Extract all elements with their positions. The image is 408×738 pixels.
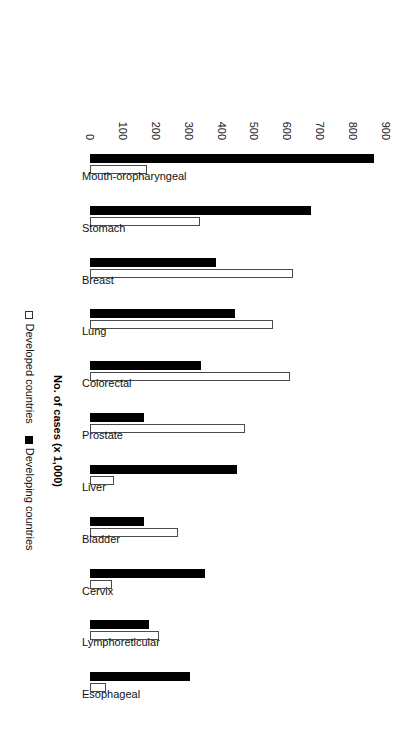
bar-group [90, 309, 386, 353]
bar-developed-countries [90, 320, 273, 329]
category-label: Bladder [82, 533, 120, 545]
category-label: Stomach [82, 222, 125, 234]
category-label: Breast [82, 274, 114, 286]
category-label: Cervix [82, 585, 113, 597]
bar-developing-countries [90, 154, 374, 163]
bar-group [90, 517, 386, 561]
category-label: Mouth-oropharyngeal [82, 170, 187, 182]
legend-entry: Developing countries [24, 436, 36, 551]
category-label: Lung [82, 325, 106, 337]
category-label: Colorectal [82, 377, 132, 389]
category-label: Lymphoreticular [82, 636, 160, 648]
bar-group [90, 413, 386, 457]
legend-swatch-open-icon [25, 311, 33, 319]
bar-group [90, 258, 386, 302]
chart-legend: Developed countriesDeveloping countries [24, 146, 36, 716]
value-axis-tick: 900 [380, 112, 392, 140]
value-axis-tick: 0 [84, 112, 96, 140]
bar-developing-countries [90, 620, 149, 629]
value-axis-tick: 200 [150, 112, 162, 140]
chart-plate: Mouth-oropharyngealStomachBreastLungColo… [0, 0, 408, 738]
bar-developed-countries [90, 269, 293, 278]
value-axis-tick: 500 [248, 112, 260, 140]
bar-group [90, 206, 386, 250]
legend-swatch-solid-icon [25, 436, 33, 444]
bar-developing-countries [90, 258, 216, 267]
category-label: Esophageal [82, 688, 140, 700]
category-label: Liver [82, 481, 106, 493]
rotated-figure-wrapper: Mouth-oropharyngealStomachBreastLungColo… [0, 0, 408, 738]
bar-developing-countries [90, 361, 201, 370]
value-axis-tick: 800 [347, 112, 359, 140]
plot-area: Mouth-oropharyngealStomachBreastLungColo… [90, 146, 386, 716]
value-axis-tick: 300 [183, 112, 195, 140]
category-label: Prostate [82, 429, 123, 441]
bar-developing-countries [90, 206, 311, 215]
bar-group [90, 465, 386, 509]
bar-developing-countries [90, 672, 190, 681]
legend-entry: Developed countries [24, 311, 36, 423]
chart-canvas: Mouth-oropharyngealStomachBreastLungColo… [0, 0, 408, 738]
bar-developing-countries [90, 309, 235, 318]
value-axis-title: No. of cases (x 1,000) [52, 146, 64, 716]
value-axis-tick: 600 [281, 112, 293, 140]
legend-label: Developed countries [24, 323, 36, 423]
bar-developing-countries [90, 517, 144, 526]
value-axis-tick: 700 [314, 112, 326, 140]
legend-label: Developing countries [24, 448, 36, 551]
bar-developing-countries [90, 465, 237, 474]
bar-group [90, 569, 386, 613]
value-axis-tick: 100 [117, 112, 129, 140]
bar-developing-countries [90, 569, 205, 578]
bar-group [90, 361, 386, 405]
value-axis-tick: 400 [216, 112, 228, 140]
bar-developing-countries [90, 413, 144, 422]
